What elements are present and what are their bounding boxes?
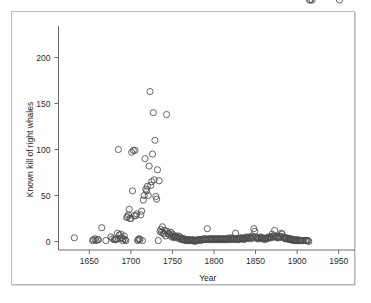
axis-labels-group: 0501001502001650170017501800185019001950… [25,53,348,284]
y-tick-label: 200 [36,53,50,63]
x-tick-label: 1800 [205,256,224,266]
data-point-marker [146,163,152,169]
data-point-marker [99,225,105,231]
figure-page: 0501001502001650170017501800185019001950… [0,0,371,303]
x-axis-title: Year [199,273,216,283]
data-point-marker [336,0,342,3]
scatter-plot: 0501001502001650170017501800185019001950… [0,0,371,303]
x-tick-label: 1650 [80,256,99,266]
x-tick-label: 1700 [121,256,140,266]
x-tick-label: 1950 [329,256,348,266]
data-point-marker [139,208,145,214]
data-point-marker [152,137,158,143]
x-tick-label: 1850 [246,256,265,266]
x-tick-label: 1900 [288,256,307,266]
data-point-marker [154,167,160,173]
data-markers-group [71,0,342,245]
y-tick-label: 50 [41,191,51,201]
scatter-plot-svg: 0501001502001650170017501800185019001950… [0,0,371,303]
axes-group [55,26,356,254]
data-point-marker [155,237,161,243]
data-point-marker [204,226,210,232]
data-point-marker [115,146,121,152]
data-point-marker [164,111,170,117]
data-point-marker [71,235,77,241]
x-tick-label: 1750 [163,256,182,266]
y-tick-label: 0 [46,237,51,247]
data-point-marker [142,156,148,162]
y-axis-title: Known kill of right whales [25,102,35,197]
y-tick-label: 100 [36,145,50,155]
data-point-marker [147,88,153,94]
data-point-marker [149,151,155,157]
y-tick-label: 150 [36,99,50,109]
data-point-marker [150,110,156,116]
data-point-marker [129,188,135,194]
